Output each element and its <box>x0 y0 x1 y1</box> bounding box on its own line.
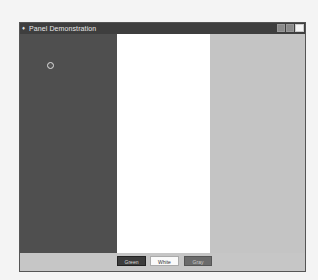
title-bar[interactable]: ♦ Panel Demonstration <box>20 23 305 34</box>
left-panel[interactable] <box>20 34 117 253</box>
app-icon[interactable]: ♦ <box>22 25 27 31</box>
panel-container <box>20 34 305 253</box>
window-title: Panel Demonstration <box>29 23 96 34</box>
circle-marker <box>47 62 54 69</box>
center-panel[interactable] <box>117 34 210 253</box>
gray-button[interactable]: Gray <box>184 256 212 266</box>
button-bar: Green White Gray <box>20 253 305 271</box>
close-button[interactable] <box>295 24 304 32</box>
green-button[interactable]: Green <box>117 256 146 266</box>
minimize-button[interactable] <box>277 24 285 32</box>
app-window: ♦ Panel Demonstration Green White Gray <box>19 22 306 272</box>
maximize-button[interactable] <box>286 24 294 32</box>
white-button[interactable]: White <box>150 256 179 266</box>
right-panel[interactable] <box>210 34 305 253</box>
